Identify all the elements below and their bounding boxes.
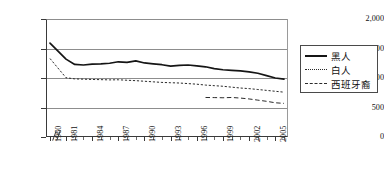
- x-tick-mark-major: [249, 137, 250, 141]
- x-tick-mark-minor: [136, 137, 137, 140]
- x-tick-label: 1999: [226, 126, 235, 142]
- legend-item-hispanic: 西班牙裔: [305, 77, 373, 91]
- x-tick-label: 1990: [148, 126, 157, 142]
- chart-figure: 05001,0001,5002,000 19601981198419871990…: [0, 0, 384, 182]
- x-tick-label: 1996: [200, 126, 209, 142]
- x-tick-label: 1993: [174, 126, 183, 142]
- legend-item-black: 黑人: [305, 49, 373, 63]
- x-tick-mark-minor: [83, 137, 84, 140]
- legend-swatch-dashed-icon: [305, 80, 327, 88]
- series-line-black: [50, 43, 284, 79]
- x-tick-mark-major: [275, 137, 276, 141]
- x-tick-mark-minor: [267, 137, 268, 140]
- x-tick-mark-minor: [214, 137, 215, 140]
- x-tick-mark-major: [92, 137, 93, 141]
- chart-legend: 黑人 白人 西班牙裔: [300, 45, 378, 93]
- x-tick-mark-major: [197, 137, 198, 141]
- y-tick-label: 500: [350, 104, 384, 112]
- x-tick-mark-major: [223, 137, 224, 141]
- y-tick-mark: [41, 137, 46, 138]
- y-tick-label: 0: [350, 133, 384, 141]
- x-tick-label: 2002: [253, 126, 262, 142]
- legend-swatch-dotted-icon: [305, 66, 327, 74]
- x-tick-mark-major: [144, 137, 145, 141]
- x-tick-mark-minor: [240, 137, 241, 140]
- legend-label-hispanic: 西班牙裔: [327, 79, 371, 90]
- y-tick-label: 2,000: [350, 15, 384, 23]
- x-tick-mark-minor: [110, 137, 111, 140]
- series-layer: [46, 19, 288, 137]
- x-tick-mark-major: [118, 137, 119, 141]
- x-tick-mark-major: [66, 137, 67, 141]
- legend-swatch-solid-icon: [305, 52, 327, 60]
- legend-label-white: 白人: [327, 65, 351, 76]
- x-tick-mark-major: [50, 137, 51, 141]
- x-tick-mark-minor: [188, 137, 189, 140]
- x-tick-label: 1987: [122, 126, 131, 142]
- legend-item-white: 白人: [305, 63, 373, 77]
- series-line-white: [50, 59, 284, 93]
- axis-break-icon: [52, 130, 63, 142]
- x-tick-label: 1984: [96, 126, 105, 142]
- x-tick-label: 1981: [70, 126, 79, 142]
- legend-label-black: 黑人: [327, 51, 351, 62]
- x-tick-label: 2005: [279, 126, 288, 142]
- x-tick-mark-major: [171, 137, 172, 141]
- series-line-hispanic: [206, 97, 284, 103]
- x-tick-mark-minor: [162, 137, 163, 140]
